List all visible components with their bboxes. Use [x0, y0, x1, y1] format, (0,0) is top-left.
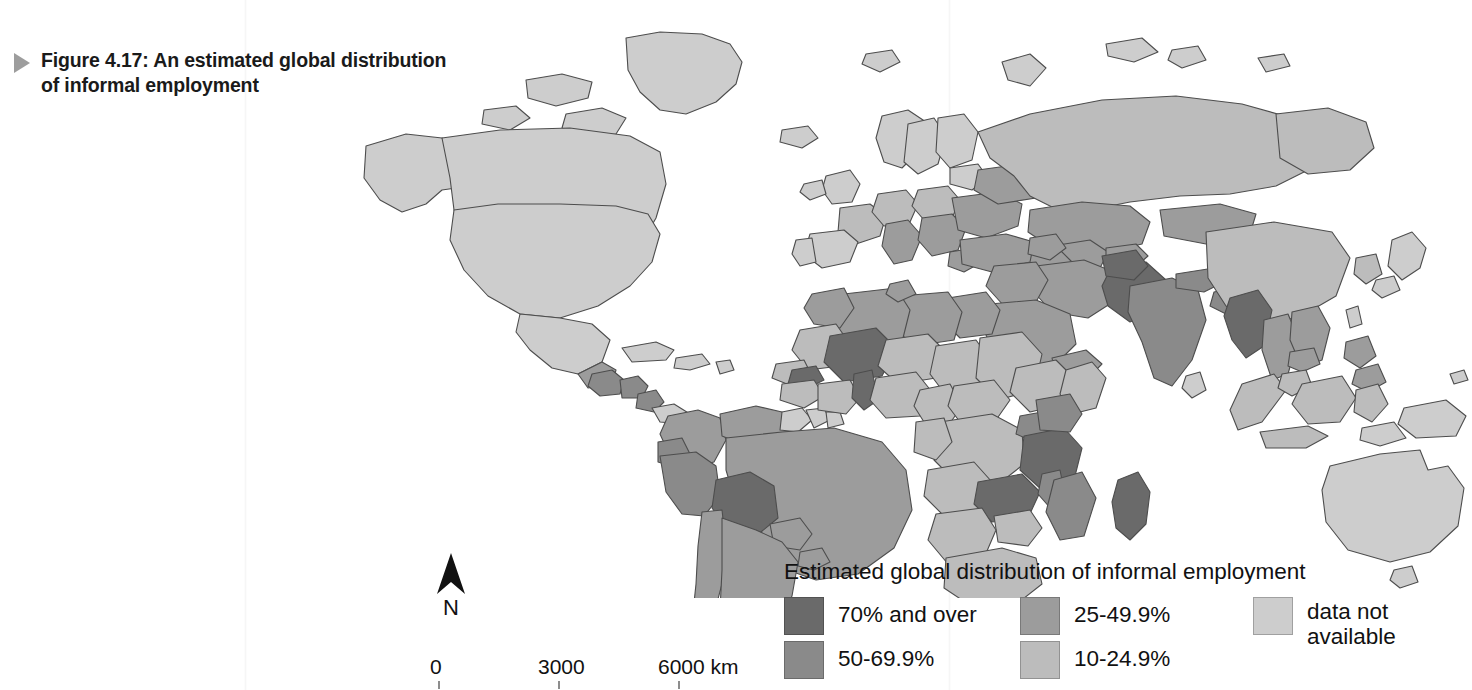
- scale-tick-mark-0: [438, 681, 440, 689]
- legend-swatch: [1020, 641, 1060, 679]
- triangle-right-icon: [14, 53, 30, 73]
- region-arctic-islands-c: [482, 106, 530, 130]
- region-uk: [822, 170, 860, 204]
- region-indonesia-east: [1360, 422, 1406, 446]
- region-usa: [450, 204, 660, 318]
- legend-label: 70% and over: [838, 604, 977, 627]
- figure-page: Figure 4.17: An estimated global distrib…: [0, 0, 1472, 690]
- scale-tick-max: 6000 km: [658, 655, 739, 679]
- legend-label: data not available: [1307, 599, 1463, 649]
- region-cambodia: [1288, 348, 1320, 372]
- legend-item[interactable]: 10-24.9%: [1020, 641, 1253, 685]
- legend-label: 10-24.9%: [1074, 648, 1170, 671]
- legend-column-2: 25-49.9% 10-24.9%: [1020, 597, 1253, 685]
- legend-swatch: [784, 597, 824, 635]
- region-iraq-syria: [986, 262, 1048, 306]
- scale-tick-0: 0: [430, 655, 442, 679]
- scale-tick-mark-mid: [558, 681, 560, 689]
- region-madagascar: [1112, 472, 1150, 540]
- scale-tick-mid: 3000: [538, 655, 585, 679]
- legend-swatch: [1020, 597, 1060, 635]
- scale-bar-ticks: [430, 681, 730, 690]
- region-arctic-islands-a: [526, 74, 592, 106]
- legend-columns: 70% and over 50-69.9% 25-49.9% 10-24.9%: [784, 597, 1472, 685]
- region-germany: [872, 190, 918, 226]
- north-arrow-label: N: [424, 597, 478, 619]
- region-french-guiana: [826, 412, 844, 428]
- legend-item[interactable]: 50-69.9%: [784, 641, 1020, 685]
- region-java: [1260, 426, 1328, 448]
- region-philippines-n: [1344, 336, 1376, 368]
- region-japan-south: [1372, 276, 1400, 298]
- region-iceland: [780, 126, 818, 148]
- region-greenland: [626, 32, 742, 114]
- region-zimbabwe: [994, 510, 1042, 546]
- legend-item[interactable]: data not available: [1253, 597, 1463, 641]
- region-svalbard: [862, 50, 900, 72]
- region-pacific-isl: [1450, 370, 1468, 384]
- page-gutter-seam: [244, 0, 247, 690]
- region-mozambique: [1046, 472, 1096, 540]
- map-legend: Estimated global distribution of informa…: [784, 560, 1472, 685]
- region-antilles: [716, 360, 734, 374]
- world-map[interactable]: .l { fill:#cdcdcd; stroke:#4d4d4d; strok…: [330, 18, 1472, 598]
- region-arctic-far-e: [1258, 54, 1290, 72]
- north-arrow-icon: [434, 552, 468, 598]
- legend-title: Estimated global distribution of informa…: [784, 560, 1472, 585]
- region-finland: [936, 114, 978, 168]
- scale-bar-labels: 0 3000 6000 km: [430, 655, 730, 681]
- world-map-svg: .l { fill:#cdcdcd; stroke:#4d4d4d; strok…: [330, 18, 1472, 598]
- region-novaya-zemlya: [1002, 54, 1046, 86]
- region-png: [1398, 400, 1466, 438]
- legend-column-1: 70% and over 50-69.9%: [784, 597, 1020, 685]
- legend-item[interactable]: 70% and over: [784, 597, 1020, 641]
- region-cuba: [622, 342, 674, 362]
- region-japan: [1388, 232, 1426, 280]
- region-sri-lanka: [1182, 372, 1206, 398]
- region-portugal: [792, 238, 816, 266]
- region-central-america-guatemala: [588, 370, 624, 396]
- legend-label: 25-49.9%: [1074, 604, 1170, 627]
- legend-column-3: data not available: [1253, 597, 1463, 641]
- map-scale-bar: 0 3000 6000 km: [430, 655, 730, 690]
- region-sumatra: [1230, 374, 1286, 430]
- region-ireland: [800, 180, 826, 200]
- north-arrow: N: [424, 552, 478, 618]
- region-hispaniola: [674, 354, 710, 370]
- region-taiwan: [1346, 306, 1362, 328]
- region-sulawesi: [1354, 384, 1388, 422]
- legend-swatch: [1253, 597, 1293, 635]
- legend-item[interactable]: 25-49.9%: [1020, 597, 1253, 641]
- region-australia: [1322, 450, 1464, 562]
- region-russia: [978, 96, 1316, 210]
- region-siberia-east: [1276, 108, 1374, 174]
- legend-label: 50-69.9%: [838, 648, 934, 671]
- region-italy: [882, 220, 922, 264]
- region-arctic-russia-isl: [1106, 38, 1158, 62]
- region-guinea-sierra: [780, 380, 824, 408]
- scale-tick-mark-max: [678, 681, 680, 689]
- legend-swatch: [784, 641, 824, 679]
- region-india: [1128, 278, 1206, 386]
- region-severnaya: [1168, 46, 1206, 68]
